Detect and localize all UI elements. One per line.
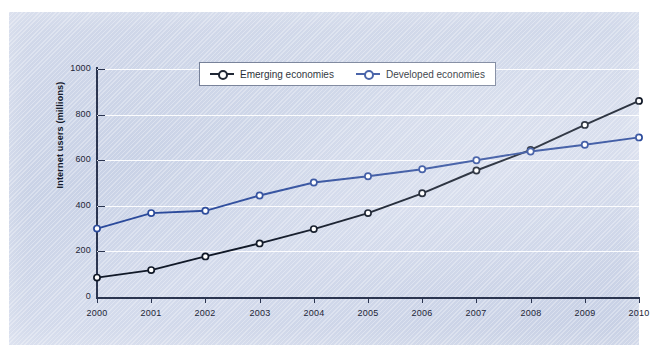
plot-area bbox=[97, 69, 639, 297]
x-axis-tick bbox=[151, 297, 152, 303]
legend-marker-icon-developed bbox=[356, 69, 380, 79]
x-axis-tick-label: 2001 bbox=[129, 308, 173, 318]
x-axis-tick-label: 2006 bbox=[400, 308, 444, 318]
legend-label-emerging: Emerging economies bbox=[240, 69, 334, 80]
data-point-marker bbox=[311, 179, 317, 185]
chart-panel: 02004006008001000 2000200120022003200420… bbox=[9, 12, 639, 345]
y-axis-title: Internet users (millions) bbox=[55, 40, 65, 230]
data-point-marker bbox=[582, 142, 588, 148]
data-point-marker bbox=[419, 190, 425, 196]
data-point-marker bbox=[473, 157, 479, 163]
x-axis-tick bbox=[422, 297, 423, 303]
data-point-marker bbox=[148, 267, 154, 273]
data-point-marker bbox=[202, 253, 208, 259]
data-point-marker bbox=[202, 208, 208, 214]
data-point-marker bbox=[419, 166, 425, 172]
data-point-marker bbox=[257, 192, 263, 198]
data-point-marker bbox=[636, 98, 642, 104]
data-point-marker bbox=[582, 122, 588, 128]
data-point-marker bbox=[365, 173, 371, 179]
data-point-marker bbox=[365, 210, 371, 216]
x-axis-tick-label: 2002 bbox=[183, 308, 227, 318]
x-axis-tick bbox=[205, 297, 206, 303]
legend-item-developed: Developed economies bbox=[356, 69, 485, 80]
x-axis-tick-label: 2000 bbox=[75, 308, 119, 318]
x-axis-tick-label: 2009 bbox=[563, 308, 607, 318]
x-axis-tick bbox=[97, 297, 98, 303]
x-axis-tick-label: 2008 bbox=[509, 308, 553, 318]
data-point-marker bbox=[94, 226, 100, 232]
legend-marker-icon-emerging bbox=[210, 69, 234, 79]
legend-label-developed: Developed economies bbox=[386, 69, 485, 80]
data-point-marker bbox=[636, 134, 642, 140]
x-axis-tick bbox=[314, 297, 315, 303]
x-axis-tick bbox=[368, 297, 369, 303]
data-point-marker bbox=[473, 167, 479, 173]
series-lines bbox=[97, 69, 639, 297]
data-point-marker bbox=[311, 226, 317, 232]
chart-legend: Emerging economies Developed economies bbox=[199, 62, 496, 86]
x-axis-tick bbox=[639, 297, 640, 303]
x-axis-tick bbox=[260, 297, 261, 303]
x-axis-tick bbox=[531, 297, 532, 303]
x-axis-tick-label: 2003 bbox=[238, 308, 282, 318]
series-line-emerging bbox=[97, 101, 639, 278]
y-axis-tick-label: 200 bbox=[51, 245, 91, 255]
x-axis-tick-label: 2004 bbox=[292, 308, 336, 318]
data-point-marker bbox=[94, 275, 100, 281]
legend-item-emerging: Emerging economies bbox=[210, 69, 334, 80]
x-axis-tick-label: 2007 bbox=[454, 308, 498, 318]
x-axis-tick-label: 2005 bbox=[346, 308, 390, 318]
x-axis-tick-label: 2010 bbox=[617, 308, 654, 318]
data-point-marker bbox=[528, 148, 534, 154]
y-axis-tick-label: 0 bbox=[51, 291, 91, 301]
data-point-marker bbox=[148, 210, 154, 216]
data-point-marker bbox=[257, 240, 263, 246]
x-axis-tick bbox=[476, 297, 477, 303]
y-axis-tick bbox=[98, 297, 105, 298]
x-axis-tick bbox=[585, 297, 586, 303]
